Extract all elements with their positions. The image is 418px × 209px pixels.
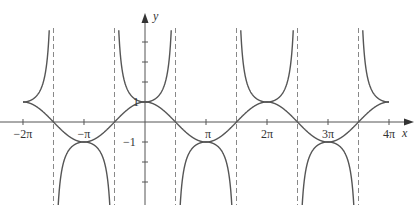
x-tick-label-pi: π <box>205 127 211 141</box>
x-axis-arrow-icon <box>404 119 414 126</box>
x-tick-label-3pi: 3π <box>322 127 334 141</box>
asymptote-lines <box>53 28 358 205</box>
x-axis-label: x <box>401 126 408 140</box>
x-tick-label-minus-2pi: −2π <box>14 127 33 141</box>
y-axis-arrow-icon <box>142 13 149 23</box>
x-tick-label-minus-pi: −π <box>78 127 91 141</box>
ticks <box>23 42 389 182</box>
y-axis-label: y <box>152 9 159 23</box>
sec-curve <box>23 30 389 205</box>
y-tick-label-1: 1 <box>133 95 139 109</box>
x-tick-label-2pi: 2π <box>261 127 273 141</box>
cos-sec-chart: y x 1 −1 −2π −π π 2π 3π 4π <box>0 0 418 209</box>
axes <box>0 13 414 205</box>
x-tick-label-4pi: 4π <box>383 127 395 141</box>
curves <box>23 30 389 205</box>
y-tick-label-minus-1: −1 <box>123 135 136 149</box>
